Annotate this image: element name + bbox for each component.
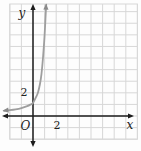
graph-figure: yxO22 bbox=[0, 0, 141, 151]
y-axis-label: y bbox=[18, 6, 26, 20]
y-tick-label-2: 2 bbox=[21, 86, 28, 99]
origin-label: O bbox=[21, 119, 31, 133]
x-tick-label-2: 2 bbox=[54, 119, 61, 132]
curve-arrow-top bbox=[43, 4, 48, 10]
x-axis-label: x bbox=[127, 118, 134, 132]
x-axis-arrow-left bbox=[2, 113, 8, 118]
y-axis-arrow-bottom bbox=[30, 141, 35, 147]
coordinate-plane: yxO22 bbox=[0, 0, 141, 151]
y-axis-arrow-top bbox=[30, 4, 35, 10]
